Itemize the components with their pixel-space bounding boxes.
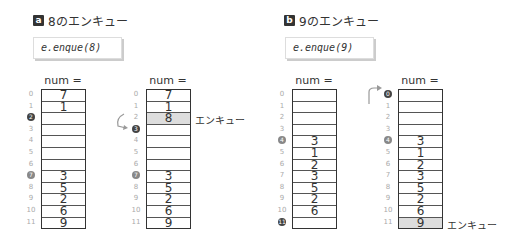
array-cell — [293, 102, 336, 114]
index-label: 9 — [382, 193, 394, 205]
index-label: 0 — [25, 89, 37, 101]
queue-array: 7135269 — [41, 89, 86, 229]
index-label: 2 — [276, 112, 288, 124]
array-cell — [147, 136, 190, 148]
index-label: 1 — [25, 101, 37, 113]
array-cell — [293, 113, 336, 125]
index-label: 3 — [382, 124, 394, 136]
index-label: 5 — [276, 147, 288, 159]
array-cell — [399, 113, 442, 125]
index-label: 10 — [382, 205, 394, 217]
section-b-badge: b — [284, 15, 295, 26]
index-label: 11 — [382, 217, 394, 229]
array-cell — [293, 218, 336, 229]
array-cell — [399, 102, 442, 114]
queue-array: 3123526 — [292, 89, 337, 229]
index-label: 0 — [130, 89, 142, 101]
index-label: 11 — [25, 217, 37, 229]
index-label: 6 — [382, 159, 394, 171]
section-a-code-box: e.enque(8) — [33, 37, 122, 59]
index-label: 7 — [276, 170, 288, 182]
head-marker-icon: 4 — [382, 135, 394, 147]
array-cell — [42, 113, 85, 125]
enqueue-annotation: エンキュー — [447, 217, 497, 232]
array-cell — [147, 125, 190, 137]
array-cell — [293, 90, 336, 102]
array-cell — [42, 148, 85, 160]
array-cell — [42, 125, 85, 137]
array-cell — [399, 90, 442, 102]
tail-marker-icon: 11 — [276, 217, 288, 229]
enqueue-annotation: エンキュー — [195, 112, 245, 127]
index-label: 8 — [25, 182, 37, 194]
section-a-badge: a — [33, 15, 44, 26]
index-label: 8 — [130, 182, 142, 194]
section-a-title-text: 8のエンキュー — [48, 12, 128, 29]
index-label: 3 — [276, 124, 288, 136]
index-label: 6 — [130, 159, 142, 171]
index-label: 1 — [130, 101, 142, 113]
array-cell — [42, 136, 85, 148]
section-b-title-text: 9のエンキュー — [299, 12, 379, 29]
index-label: 6 — [25, 159, 37, 171]
index-label: 10 — [276, 205, 288, 217]
index-label: 8 — [276, 182, 288, 194]
array-cell: 9 — [147, 218, 190, 229]
array-cell: 9 — [42, 218, 85, 229]
head-marker-icon: 7 — [130, 170, 142, 182]
queue-array: 71835269 — [146, 89, 191, 229]
array-cell: 8 — [147, 113, 190, 125]
head-marker-icon: 4 — [276, 135, 288, 147]
array-cell — [147, 148, 190, 160]
tail-marker-icon: 2 — [25, 112, 37, 124]
index-label: 2 — [382, 112, 394, 124]
index-label: 8 — [382, 182, 394, 194]
index-label: 9 — [25, 193, 37, 205]
section-a-title: a 8のエンキュー — [33, 12, 128, 29]
index-label: 9 — [276, 193, 288, 205]
index-label: 10 — [25, 205, 37, 217]
index-label: 11 — [130, 217, 142, 229]
index-label: 0 — [276, 89, 288, 101]
curved-arrow-icon — [366, 84, 384, 106]
section-b-code-box: e.enque(9) — [285, 37, 374, 59]
section-b-title: b 9のエンキュー — [284, 12, 379, 29]
index-label: 6 — [276, 159, 288, 171]
index-label: 5 — [25, 147, 37, 159]
index-label: 4 — [130, 135, 142, 147]
array-cell: 6 — [293, 206, 336, 218]
array-cell: 1 — [42, 102, 85, 114]
index-label: 7 — [382, 170, 394, 182]
index-label: 1 — [276, 101, 288, 113]
index-label: 4 — [25, 135, 37, 147]
head-marker-icon: 7 — [25, 170, 37, 182]
index-label: 5 — [382, 147, 394, 159]
index-label: 10 — [130, 205, 142, 217]
index-label: 9 — [130, 193, 142, 205]
array-cell: 9 — [399, 218, 442, 229]
index-label: 3 — [25, 124, 37, 136]
index-label: 5 — [130, 147, 142, 159]
queue-array: 31235269 — [398, 89, 443, 229]
curved-arrow-icon — [112, 112, 132, 134]
